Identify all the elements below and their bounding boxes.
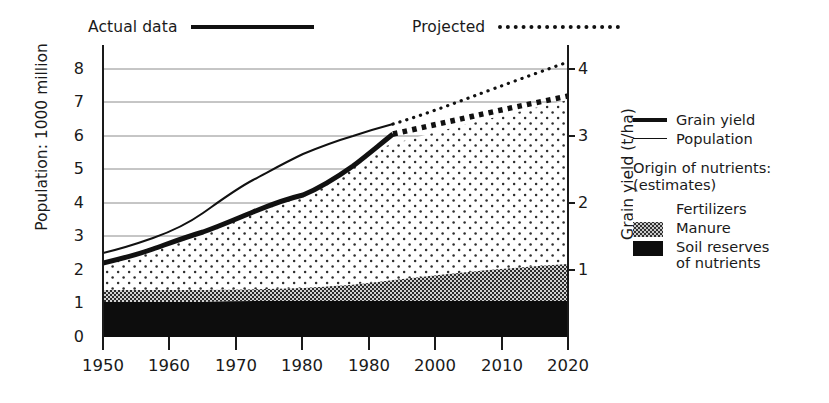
thin-line-icon	[633, 138, 667, 140]
legend-origin-heading-line1: Origin of nutrients:	[633, 160, 829, 177]
legend-item-manure: Manure	[633, 220, 829, 237]
chart-figure: Actual data Projected Population: 1000 m…	[0, 0, 829, 403]
chart-legend: Grain yield Population Origin of nutrien…	[633, 112, 829, 274]
legend-origin-heading: Origin of nutrients: (estimates)	[633, 160, 829, 193]
legend-item-fertilizers: Fertilizers	[633, 201, 829, 218]
legend-grain-yield-label: Grain yield	[676, 112, 755, 129]
legend-origin-heading-line2: (estimates)	[633, 177, 829, 194]
legend-item-population: Population	[633, 131, 829, 148]
legend-manure-label: Manure	[676, 220, 731, 237]
manure-swatch-icon	[633, 222, 663, 237]
x-axis-ticks	[103, 337, 568, 350]
legend-soil-label-line1: Soil reserves	[676, 239, 769, 256]
legend-fertilizers-label: Fertilizers	[676, 201, 747, 218]
fertilizers-swatch-icon	[633, 203, 663, 218]
soil-reserves-swatch-icon	[633, 241, 663, 256]
thick-line-icon	[633, 118, 667, 122]
legend-item-soil-reserves: Soil reserves of nutrients	[633, 239, 829, 272]
area-fertilizers	[103, 100, 568, 290]
legend-soil-label-line2: of nutrients	[676, 255, 769, 272]
legend-population-label: Population	[676, 131, 753, 148]
y-right-ticks	[568, 69, 575, 270]
area-soil-reserves	[103, 301, 568, 337]
legend-item-grain-yield: Grain yield	[633, 112, 829, 129]
